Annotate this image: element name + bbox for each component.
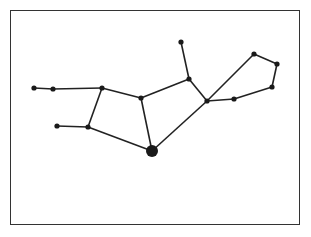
star-M bbox=[85, 124, 90, 129]
star-K bbox=[231, 96, 236, 101]
edge-A-B bbox=[34, 88, 53, 89]
edge-J-K bbox=[234, 87, 272, 99]
edge-E-G bbox=[189, 79, 207, 101]
edge-C-M bbox=[88, 88, 102, 127]
edge-H-I bbox=[254, 54, 277, 64]
star-E bbox=[186, 76, 191, 81]
edge-D-E bbox=[141, 79, 189, 98]
edge-B-C bbox=[53, 88, 102, 89]
star-H bbox=[251, 51, 256, 56]
edge-I-J bbox=[272, 64, 277, 87]
star-C bbox=[99, 85, 104, 90]
star-G bbox=[204, 98, 209, 103]
constellation-stars bbox=[31, 39, 279, 157]
star-F bbox=[178, 39, 183, 44]
star-J bbox=[269, 84, 274, 89]
edge-M-L bbox=[88, 127, 152, 151]
star-N bbox=[54, 123, 59, 128]
edge-N-M bbox=[57, 126, 88, 127]
edge-C-D bbox=[102, 88, 141, 98]
star-L bbox=[146, 145, 158, 157]
constellation-lines bbox=[34, 42, 277, 151]
constellation-diagram bbox=[0, 0, 311, 237]
star-D bbox=[138, 95, 143, 100]
edge-D-L bbox=[141, 98, 152, 151]
edge-K-G bbox=[207, 99, 234, 101]
edge-G-L bbox=[152, 101, 207, 151]
star-A bbox=[31, 85, 36, 90]
star-B bbox=[50, 86, 55, 91]
edge-G-H bbox=[207, 54, 254, 101]
star-I bbox=[274, 61, 279, 66]
edge-E-F bbox=[181, 42, 189, 79]
